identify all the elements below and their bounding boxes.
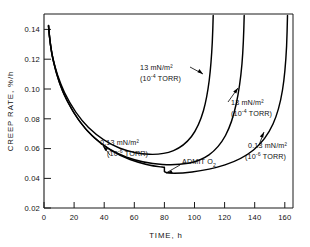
annot-paren-open: (10 bbox=[140, 74, 151, 83]
chart-svg: 0.14 0.12 0.10 0.08 0.06 0.04 0.02 0 20 … bbox=[0, 0, 310, 247]
annot-paren-open: (10 bbox=[245, 152, 256, 161]
y-tick-label: 0.08 bbox=[24, 115, 40, 124]
annotation-upper-left: 13 mN/m² (10-4 TORR) bbox=[140, 63, 181, 83]
curve-13-mn-a bbox=[49, 16, 214, 155]
annot-torr: TORR) bbox=[261, 152, 286, 161]
annot-lower-left-line1: 0.13 mN/m² bbox=[100, 138, 139, 147]
annot-lower-left-line2: (10-6 TORR) bbox=[107, 148, 148, 158]
y-axis-title: CREEP RATE, %/h bbox=[6, 71, 15, 151]
annot-torr: TORR) bbox=[156, 74, 181, 83]
annot-torr: TORR) bbox=[247, 109, 272, 118]
admit-o2-text: ADMIT O bbox=[182, 157, 213, 166]
y-tick-label: 0.04 bbox=[24, 174, 40, 183]
x-tick-label: 60 bbox=[130, 213, 139, 222]
leader-upper-left bbox=[190, 67, 203, 74]
annot-upper-right-line1: 13 mN/m² bbox=[231, 98, 264, 107]
annot-lower-right-line2: (10-6 TORR) bbox=[245, 151, 286, 161]
curve-13-mn-b bbox=[49, 16, 245, 165]
annot-upper-left-line2: (10-4 TORR) bbox=[140, 73, 181, 83]
y-axis-ticks bbox=[44, 29, 51, 208]
leader-admit-o2 bbox=[166, 165, 180, 174]
y-tick-label: 0.10 bbox=[24, 85, 40, 94]
x-tick-labels: 0 20 40 60 80 100 120 140 160 bbox=[42, 213, 292, 222]
annot-paren-open: (10 bbox=[231, 109, 242, 118]
y-tick-label: 0.12 bbox=[24, 55, 40, 64]
x-tick-label: 40 bbox=[100, 213, 109, 222]
x-tick-label: 120 bbox=[218, 213, 231, 222]
y-tick-label: 0.14 bbox=[24, 25, 40, 34]
annot-paren-open: (10 bbox=[107, 149, 118, 158]
x-tick-label: 140 bbox=[248, 213, 261, 222]
x-tick-label: 100 bbox=[188, 213, 201, 222]
creep-rate-chart-figure: 0.14 0.12 0.10 0.08 0.06 0.04 0.02 0 20 … bbox=[0, 0, 310, 247]
y-tick-labels: 0.14 0.12 0.10 0.08 0.06 0.04 0.02 bbox=[24, 25, 40, 213]
annotation-admit-o2: ADMIT O2 bbox=[182, 157, 216, 168]
admit-o2-label: ADMIT O2 bbox=[182, 157, 216, 168]
annotation-upper-right: 13 mN/m² (10-4 TORR) bbox=[231, 98, 272, 118]
annot-torr: TORR) bbox=[123, 149, 148, 158]
x-axis-ticks bbox=[44, 202, 285, 208]
x-tick-label: 160 bbox=[278, 213, 291, 222]
annot-lower-right-line1: 0.13 mN/m² bbox=[248, 141, 287, 150]
annot-upper-left-line1: 13 mN/m² bbox=[140, 63, 173, 72]
x-tick-label: 20 bbox=[70, 213, 79, 222]
x-tick-label: 0 bbox=[42, 213, 46, 222]
x-tick-label: 80 bbox=[160, 213, 169, 222]
y-tick-label: 0.02 bbox=[24, 204, 40, 213]
annot-upper-right-line2: (10-4 TORR) bbox=[231, 108, 272, 118]
x-axis-title: TIME, h bbox=[149, 231, 183, 240]
y-tick-label: 0.06 bbox=[24, 144, 40, 153]
admit-o2-subscript: 2 bbox=[213, 162, 216, 168]
